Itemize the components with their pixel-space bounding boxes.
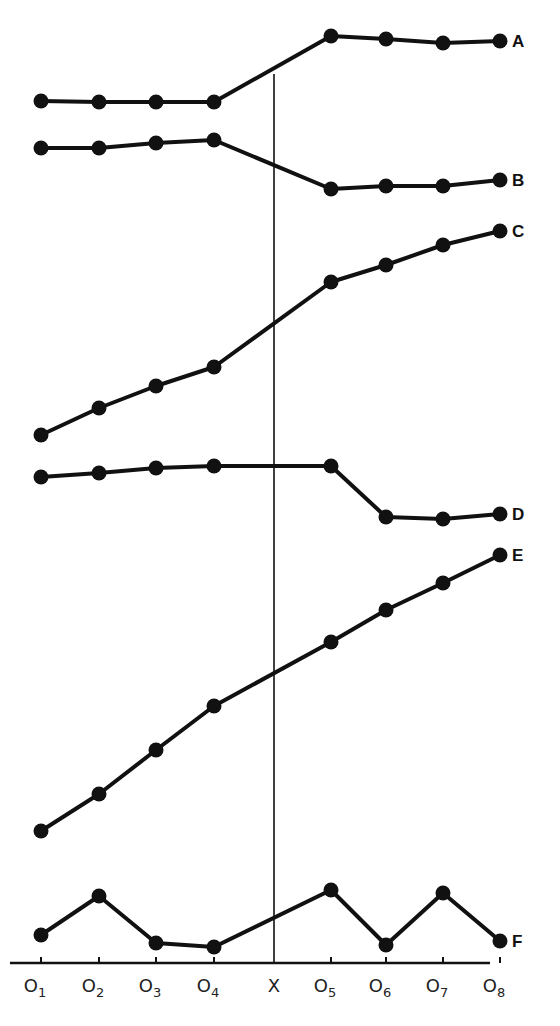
x-tick-label: O3 [139, 975, 161, 1000]
data-point [324, 883, 339, 898]
series-d: D [34, 459, 525, 527]
data-point [493, 507, 508, 522]
data-point [324, 459, 339, 474]
data-point [436, 512, 451, 527]
data-point [34, 428, 49, 443]
data-point [149, 95, 164, 110]
data-point [324, 275, 339, 290]
series-line [41, 466, 500, 519]
data-point [324, 182, 339, 197]
data-point [379, 179, 394, 194]
data-point [493, 934, 508, 949]
data-point [436, 576, 451, 591]
data-point [436, 36, 451, 51]
data-point [379, 938, 394, 953]
x-tick-label: O8 [483, 975, 505, 1000]
data-point [379, 603, 394, 618]
x-tick-label: O1 [24, 975, 46, 1000]
series-b: B [34, 133, 525, 197]
data-point [34, 94, 49, 109]
series-line [41, 231, 500, 435]
data-point [493, 173, 508, 188]
series-label: D [512, 505, 524, 524]
data-point [92, 95, 107, 110]
x-tick-label: O7 [426, 975, 448, 1000]
series-a: A [34, 29, 525, 110]
series-line [41, 36, 500, 102]
data-point [493, 224, 508, 239]
data-point [436, 179, 451, 194]
data-point [493, 34, 508, 49]
data-point [436, 238, 451, 253]
data-point [207, 459, 222, 474]
data-point [34, 470, 49, 485]
data-point [207, 699, 222, 714]
series-c: C [34, 222, 525, 443]
data-point [207, 940, 222, 955]
data-point [149, 936, 164, 951]
data-point [92, 889, 107, 904]
x-tick-label: O4 [197, 975, 219, 1000]
data-point [379, 32, 394, 47]
x-tick-label: X [268, 975, 280, 996]
data-point [207, 360, 222, 375]
data-point [379, 510, 394, 525]
data-point [493, 548, 508, 563]
series-group: ABCDEF [34, 29, 525, 955]
data-point [34, 824, 49, 839]
data-point [324, 635, 339, 650]
data-point [149, 136, 164, 151]
x-tick-label: O2 [82, 975, 104, 1000]
series-label: A [512, 32, 524, 51]
data-point [149, 379, 164, 394]
x-axis: O1O2O3O4XO5O6O7O8 [10, 957, 505, 1000]
series-e: E [34, 546, 524, 839]
data-point [324, 29, 339, 44]
series-line [41, 555, 500, 831]
series-label: B [512, 171, 524, 190]
data-point [379, 258, 394, 273]
series-label: E [512, 546, 523, 565]
series-line [41, 890, 500, 947]
data-point [92, 466, 107, 481]
series-label: F [512, 932, 522, 951]
data-point [92, 787, 107, 802]
data-point [149, 743, 164, 758]
x-tick-label: O5 [314, 975, 336, 1000]
data-point [149, 461, 164, 476]
interrupted-time-series-chart: ABCDEF O1O2O3O4XO5O6O7O8 [0, 0, 560, 1026]
x-tick-label: O6 [369, 975, 391, 1000]
series-label: C [512, 222, 524, 241]
data-point [436, 886, 451, 901]
series-f: F [34, 883, 523, 955]
data-point [207, 133, 222, 148]
data-point [92, 401, 107, 416]
data-point [34, 141, 49, 156]
series-line [41, 140, 500, 189]
data-point [34, 928, 49, 943]
data-point [92, 141, 107, 156]
data-point [207, 95, 222, 110]
